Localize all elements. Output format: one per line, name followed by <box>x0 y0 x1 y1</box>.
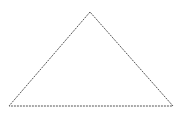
diagram-canvas <box>0 0 187 122</box>
dashed-triangle-shape <box>9 12 173 106</box>
